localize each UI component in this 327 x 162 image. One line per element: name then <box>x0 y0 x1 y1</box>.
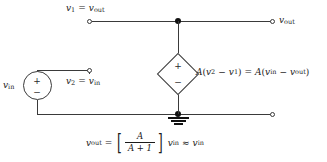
result-lhs-sub: out <box>91 139 102 147</box>
label-vin-source: vin <box>3 80 14 93</box>
result-rhs-sub: in <box>173 139 179 147</box>
result-approx-sub: in <box>198 139 204 147</box>
terminal-vout[interactable] <box>270 19 275 24</box>
label-v2-rel: = <box>78 76 86 86</box>
dependent-source-expression: A(v2−v1)=A(vin−vout) <box>196 67 309 77</box>
bracket-open: [ <box>117 137 122 149</box>
ground-bar-1 <box>168 117 189 119</box>
wire-diamond-top-lead <box>178 21 179 53</box>
wire-bottom-right <box>178 114 272 115</box>
label-v1-equals-vout: v1=vout <box>66 3 105 16</box>
result-equation: vout=[AA + 1]vin≈vin <box>86 132 204 153</box>
source-plus-sign: + <box>32 77 42 86</box>
circuit-diagram-canvas: v1=vout vout + − vin v2=vin + − A(v2−v1)… <box>0 0 327 162</box>
label-v2-equals-vin: v2=vin <box>66 76 100 89</box>
wire-top-right <box>178 21 272 22</box>
expr-minus2: − <box>279 67 287 77</box>
wire-diamond-bottom-lead <box>178 94 179 114</box>
label-vout-sub: out <box>284 18 295 26</box>
label-v2-sub: 2 <box>71 79 75 87</box>
wire-bottom-left <box>37 114 178 115</box>
dependent-source-plus-sign: + <box>173 62 183 71</box>
label-v1-sub2: out <box>94 6 105 14</box>
wire-source-bottom-lead <box>37 100 38 115</box>
expr-term1-sub: 2 <box>211 68 215 76</box>
wire-top-left <box>92 21 178 22</box>
expr-equals: = <box>245 67 253 77</box>
result-approx: ≈ <box>182 138 190 148</box>
bracket-close: ] <box>158 137 163 149</box>
fraction-numerator: A <box>134 132 146 141</box>
terminal-v1-node[interactable] <box>87 19 92 24</box>
wire-source-to-v2-terminal <box>37 70 90 71</box>
label-vin-source-sub: in <box>8 83 14 91</box>
label-vout-terminal: vout <box>279 15 295 28</box>
terminal-bottom-right[interactable] <box>270 112 275 117</box>
result-equals: = <box>105 138 113 148</box>
ground-bar-3 <box>174 123 183 125</box>
source-minus-sign: − <box>32 88 42 97</box>
terminal-v2-node[interactable] <box>87 68 92 73</box>
result-fraction: AA + 1 <box>125 132 155 153</box>
expr-close-paren2: ) <box>306 67 310 77</box>
label-v1-rel: = <box>78 3 86 13</box>
dependent-voltage-source[interactable] <box>157 53 199 95</box>
expr-term4-sub: out <box>295 68 306 76</box>
ground-bar-2 <box>171 120 186 122</box>
expr-term3-sub: in <box>270 68 276 76</box>
expr-minus: − <box>218 67 226 77</box>
dependent-source-minus-sign: − <box>173 78 183 87</box>
fraction-denominator: A + 1 <box>125 144 155 153</box>
expr-close-paren: ) <box>238 67 242 77</box>
label-v2-sub2: in <box>94 79 100 87</box>
label-v1-sub: 1 <box>71 6 75 14</box>
